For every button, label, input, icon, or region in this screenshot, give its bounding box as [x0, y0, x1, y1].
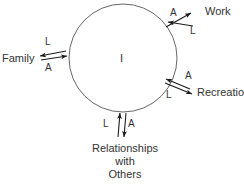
- node-label-relationships-line3: Others: [79, 168, 171, 181]
- work-inbound-label: A: [170, 8, 177, 18]
- node-label-family: Family: [2, 53, 34, 64]
- node-label-recreation: Recreatior: [197, 87, 244, 98]
- recreation-inbound-label: A: [185, 71, 192, 81]
- recreation-outbound-label: L: [166, 90, 172, 100]
- self-node-label: I: [120, 53, 123, 64]
- node-label-relationships: Relationships with Others: [79, 142, 171, 181]
- node-label-work: Work: [205, 6, 230, 17]
- node-label-relationships-line1: Relationships: [79, 142, 171, 155]
- work-outbound-label: L: [190, 26, 196, 36]
- family-inbound-label: L: [45, 37, 51, 47]
- family-arrows: [40, 51, 67, 60]
- family-outbound-label: A: [45, 63, 52, 73]
- relationships-outbound-label: A: [128, 119, 135, 129]
- node-label-relationships-line2: with: [79, 155, 171, 168]
- diagram-canvas: Family Work Recreatior Relationships wit…: [0, 0, 244, 184]
- relationships-inbound-label: L: [103, 119, 109, 129]
- relationships-arrows: [118, 113, 126, 137]
